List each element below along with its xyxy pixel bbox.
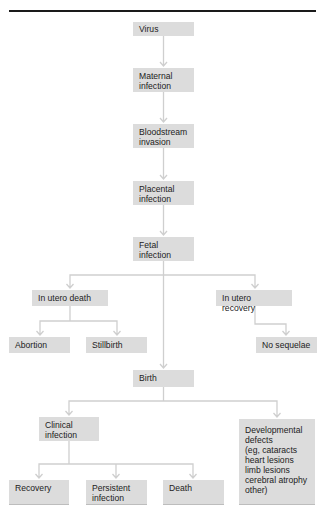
node-fetal-infection: Fetal infection (133, 237, 194, 261)
arrow-placental-fetal (160, 205, 167, 235)
arrow-recovery-sequelae (255, 306, 290, 335)
node-in-utero-death: In utero death (32, 290, 108, 306)
node-birth: Birth (133, 370, 194, 387)
node-developmental-defects: Developmental defects (eg, cataracts hea… (239, 419, 315, 505)
arrow-birth-branches (66, 387, 281, 417)
node-abortion: Abortion (9, 337, 70, 353)
node-clinical-infection: Clinical infection (39, 417, 99, 441)
node-death: Death (163, 480, 224, 505)
arrow-bloodstream-placental (160, 148, 167, 179)
node-virus: Virus (133, 22, 194, 36)
node-no-sequelae: No sequelae (256, 337, 317, 353)
node-bloodstream-invasion: Bloodstream invasion (133, 124, 194, 148)
arrow-maternal-bloodstream (160, 92, 167, 122)
node-stillbirth: Stillbirth (86, 337, 147, 353)
arrow-clinical-branches (36, 441, 197, 478)
arrow-death-branches (37, 306, 121, 335)
node-persistent-infection: Persistent infection (86, 480, 147, 505)
arrow-virus-maternal (160, 36, 167, 66)
node-maternal-infection: Maternal infection (133, 68, 194, 92)
node-recovery: Recovery (9, 480, 69, 505)
node-in-utero-recovery: In utero recovery (216, 290, 292, 306)
node-placental-infection: Placental infection (133, 181, 194, 205)
